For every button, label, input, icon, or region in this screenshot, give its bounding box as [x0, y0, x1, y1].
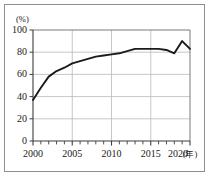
xtick-label-2005: 2005 — [62, 148, 82, 159]
chart-figure: 0 20 40 60 80 100 (%) 2000 2005 2010 201… — [0, 0, 209, 176]
ytick-label-80: 80 — [17, 46, 27, 57]
xtick-label-2010: 2010 — [102, 148, 122, 159]
xtick-label-2000: 2000 — [23, 148, 43, 159]
line-chart: 0 20 40 60 80 100 (%) 2000 2005 2010 201… — [0, 0, 209, 176]
ytick-label-60: 60 — [17, 68, 27, 79]
xtick-label-2015: 2015 — [141, 148, 161, 159]
y-tick-labels: 0 20 40 60 80 100 — [12, 24, 27, 146]
y-axis-unit-label: (%) — [16, 14, 29, 24]
ytick-label-0: 0 — [22, 135, 27, 146]
x-axis-unit-label: (年) — [183, 149, 198, 159]
ytick-label-40: 40 — [17, 91, 27, 102]
ytick-label-100: 100 — [12, 24, 27, 35]
x-tick-labels: 2000 2005 2010 2015 2020 — [23, 148, 188, 159]
ytick-label-20: 20 — [17, 113, 27, 124]
